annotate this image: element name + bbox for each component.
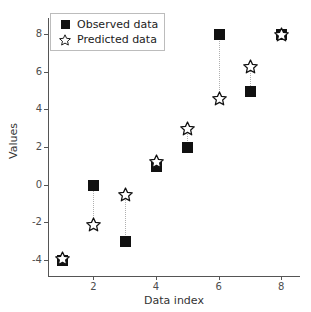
y-tick-mark: [44, 109, 48, 110]
x-axis-label: Data index: [48, 295, 300, 307]
plot-area: 86420-2-4 2468 Data index Values Observe…: [0, 0, 311, 312]
x-tick-label: 2: [81, 282, 105, 292]
y-axis-spine: [48, 18, 49, 276]
predicted-marker: [55, 251, 70, 266]
y-tick-label: 4: [36, 104, 42, 114]
y-tick-mark: [44, 72, 48, 73]
predicted-marker: [243, 59, 258, 74]
x-axis-spine: [48, 276, 300, 277]
observed-marker: [214, 29, 225, 40]
y-tick-label: 6: [36, 67, 42, 77]
x-tick-label: 8: [269, 282, 293, 292]
x-tick-mark: [281, 276, 282, 280]
predicted-marker: [180, 121, 195, 136]
y-tick-label: 8: [36, 29, 42, 39]
open-star-icon: [56, 34, 74, 46]
x-tick-mark: [219, 276, 220, 280]
x-tick-mark: [156, 276, 157, 280]
filled-square-icon: [56, 20, 74, 29]
observed-marker: [120, 236, 131, 247]
legend-item-predicted: Predicted data: [56, 32, 158, 47]
chart-legend: Observed data Predicted data: [50, 13, 165, 51]
y-tick-label: -2: [32, 217, 42, 227]
y-tick-mark: [44, 222, 48, 223]
observed-marker: [245, 86, 256, 97]
y-tick-label: -4: [32, 255, 42, 265]
observed-marker: [182, 142, 193, 153]
predicted-marker: [118, 187, 133, 202]
predicted-marker: [274, 27, 289, 42]
scatter-chart-figure: 86420-2-4 2468 Data index Values Observe…: [0, 0, 311, 312]
x-tick-label: 6: [207, 282, 231, 292]
predicted-marker: [212, 91, 227, 106]
y-tick-label: 2: [36, 142, 42, 152]
x-tick-label: 4: [144, 282, 168, 292]
legend-item-observed: Observed data: [56, 17, 158, 32]
y-tick-mark: [44, 185, 48, 186]
predicted-marker: [149, 154, 164, 169]
y-tick-mark: [44, 260, 48, 261]
y-axis-label: Values: [8, 106, 20, 176]
legend-label-predicted: Predicted data: [74, 33, 157, 46]
x-tick-mark: [93, 276, 94, 280]
connector-line: [219, 34, 220, 98]
observed-marker: [88, 180, 99, 191]
y-tick-mark: [44, 34, 48, 35]
legend-label-observed: Observed data: [74, 18, 158, 31]
y-tick-mark: [44, 147, 48, 148]
predicted-marker: [86, 217, 101, 232]
y-tick-label: 0: [36, 180, 42, 190]
